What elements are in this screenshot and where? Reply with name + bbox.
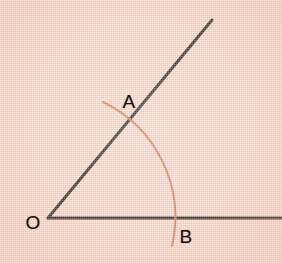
compass-arc [103,102,175,246]
geometry-figure: O A B [0,0,282,263]
point-label-a: A [123,92,136,111]
vertex-label-o: O [25,213,40,232]
point-label-b: B [180,227,193,246]
angle-construction-drawing [0,0,282,263]
